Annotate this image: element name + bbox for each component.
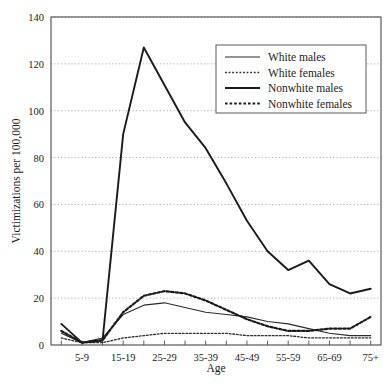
y-tick-label: 120 [28, 59, 44, 70]
y-axis-title: Victimizations per 100,000 [10, 118, 23, 243]
victimizations-by-age-line-chart: 020406080100120140 5-915-1925-2935-3945-… [0, 0, 392, 386]
y-tick-label: 20 [34, 293, 45, 304]
x-tick-label: 45-49 [235, 352, 260, 363]
y-tick-label: 0 [39, 340, 44, 351]
y-tick-label: 80 [34, 153, 45, 164]
x-tick-label: 5-9 [75, 352, 89, 363]
x-tick-label: 15-19 [111, 352, 136, 363]
x-tick-label: 25-29 [152, 352, 177, 363]
legend-label-white-females: White females [268, 67, 335, 79]
x-tick-label: 55-59 [276, 352, 301, 363]
legend-label-nonwhite-males: Nonwhite males [268, 82, 344, 94]
y-tick-label: 100 [28, 106, 44, 117]
chart-container: 020406080100120140 5-915-1925-2935-3945-… [0, 0, 392, 386]
legend-label-white-males: White males [268, 51, 326, 63]
x-tick-label: 75+ [362, 352, 379, 363]
y-tick-label: 140 [28, 12, 44, 23]
y-tick-label: 40 [34, 246, 45, 257]
x-axis-title: Age [206, 362, 225, 375]
chart-legend: White malesWhite femalesNonwhite malesNo… [216, 45, 366, 113]
y-tick-label: 60 [34, 199, 45, 210]
legend-label-nonwhite-females: Nonwhite females [268, 98, 353, 110]
x-tick-label: 65-69 [317, 352, 342, 363]
